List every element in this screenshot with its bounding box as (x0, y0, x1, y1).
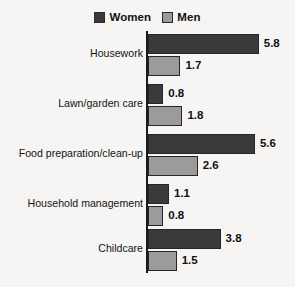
category-label: Childcare (0, 243, 143, 255)
bar-group: Childcare 3.8 1.5 (0, 229, 295, 273)
bar-men (148, 156, 198, 176)
bar-women (148, 184, 169, 204)
bar-row-women: 0.8 (148, 84, 184, 104)
grouped-bar-chart: Women Men Housework 5.8 1.7 Lawn/garden … (0, 0, 295, 287)
bar-row-men: 2.6 (148, 156, 219, 176)
bar-women (148, 84, 163, 104)
bar-value-men: 1.5 (182, 255, 198, 267)
bar-value-women: 3.8 (226, 233, 242, 245)
bar-row-men: 1.8 (148, 106, 203, 126)
category-label: Housework (0, 48, 143, 60)
bar-value-women: 5.8 (264, 38, 280, 50)
bar-group: Household management 1.1 0.8 (0, 184, 295, 228)
bar-group: Food preparation/clean-up 5.6 2.6 (0, 134, 295, 178)
bar-value-women: 0.8 (168, 88, 184, 100)
bar-men (148, 56, 180, 76)
bar-row-men: 1.7 (148, 56, 201, 76)
bar-value-men: 1.8 (187, 110, 203, 122)
plot-area: Housework 5.8 1.7 Lawn/garden care 0.8 1… (0, 0, 295, 287)
bar-value-women: 5.6 (260, 138, 276, 150)
bar-value-men: 1.7 (185, 60, 201, 72)
bar-row-men: 0.8 (148, 206, 184, 226)
bar-row-women: 3.8 (148, 229, 242, 249)
bar-row-women: 5.6 (148, 134, 276, 154)
category-label: Lawn/garden care (0, 98, 143, 110)
bar-men (148, 106, 182, 126)
bar-group: Housework 5.8 1.7 (0, 34, 295, 78)
bar-men (148, 251, 177, 271)
bar-group: Lawn/garden care 0.8 1.8 (0, 84, 295, 128)
bar-women (148, 134, 255, 154)
bar-men (148, 206, 163, 226)
bar-value-men: 0.8 (168, 210, 184, 222)
category-label: Household management (0, 198, 143, 210)
bar-row-women: 5.8 (148, 34, 280, 54)
bar-value-women: 1.1 (174, 188, 190, 200)
category-label: Food preparation/clean-up (0, 148, 143, 160)
bar-women (148, 34, 259, 54)
bar-row-women: 1.1 (148, 184, 190, 204)
bar-row-men: 1.5 (148, 251, 198, 271)
bar-value-men: 2.6 (203, 160, 219, 172)
bar-women (148, 229, 221, 249)
